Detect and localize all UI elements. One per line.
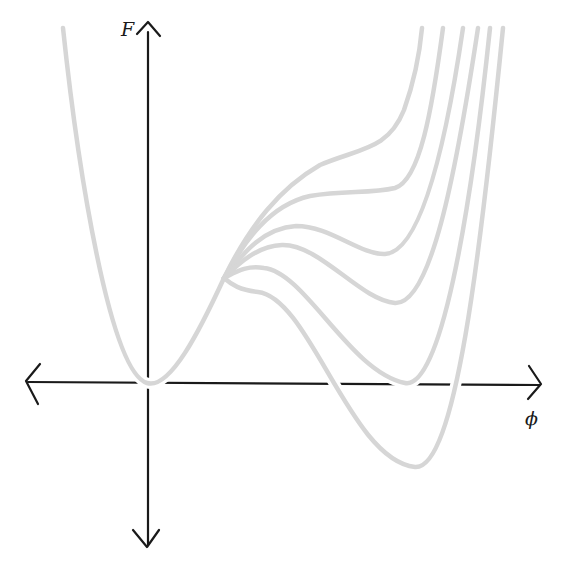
y-axis-bottom-arrowhead <box>133 530 159 547</box>
curve-halos <box>63 28 503 467</box>
x-axis-right-arrowhead <box>528 366 541 399</box>
x-axis-label: ϕ <box>525 407 538 429</box>
x-axis-left-arrowhead <box>26 364 40 404</box>
shared-left-branch <box>63 28 224 384</box>
free-energy-diagram: F ϕ <box>0 0 563 576</box>
y-axis-label: F <box>120 18 135 40</box>
x-axis-line <box>28 382 540 385</box>
